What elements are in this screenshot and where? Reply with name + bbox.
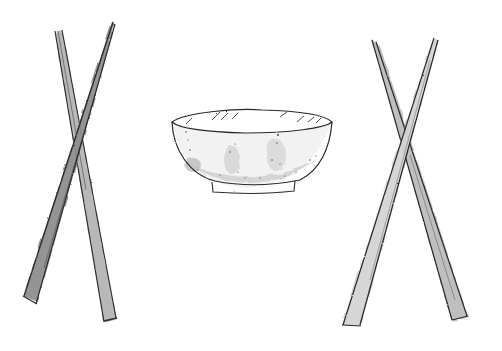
right-chopsticks xyxy=(342,38,468,326)
bowl xyxy=(172,110,332,194)
left-chopsticks xyxy=(23,22,117,322)
illustration-canvas xyxy=(0,0,502,351)
sketch-scene xyxy=(0,0,502,351)
